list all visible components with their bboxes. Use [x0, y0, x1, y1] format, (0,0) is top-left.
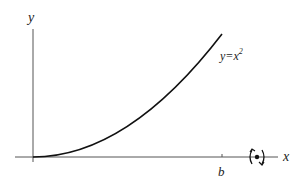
curve-label: y=x2	[219, 47, 243, 63]
parabola-curve	[33, 34, 222, 157]
x-axis-label: x	[282, 149, 290, 164]
tick-label-b: b	[218, 164, 225, 179]
y-axis-label: y	[26, 10, 35, 25]
diagram-canvas: y x b y=x2	[0, 0, 304, 182]
